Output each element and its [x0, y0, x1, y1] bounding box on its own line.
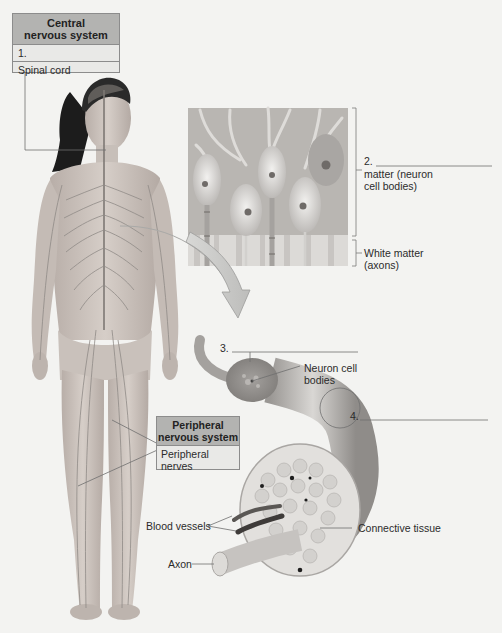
- cns-box-header: Central nervous system: [13, 14, 119, 45]
- blank-4-number[interactable]: 4.: [350, 410, 359, 422]
- pns-item-line1: Peripheral: [161, 448, 235, 460]
- blank-1-number: 1.: [18, 47, 27, 59]
- blank-2-number[interactable]: 2.: [364, 155, 373, 167]
- pns-title-line2: nervous system: [158, 431, 238, 443]
- neuron-cell-bodies-line2: bodies: [304, 374, 357, 386]
- gray-white-matter-panel: [188, 108, 362, 266]
- white-matter-line1: White matter: [364, 247, 424, 259]
- human-figure: [32, 78, 179, 620]
- pns-box-header: Peripheral nervous system: [157, 417, 239, 446]
- cns-spinal-cord-label: Spinal cord: [13, 62, 119, 78]
- gray-matter-line1: matter (neuron: [364, 168, 433, 180]
- neuron-cell-bodies-label: Neuron cell bodies: [304, 362, 357, 386]
- cns-label-box: Central nervous system 1. Spinal cord: [12, 13, 120, 73]
- blank-3-number[interactable]: 3.: [220, 342, 229, 354]
- pns-item-line2: nerves: [161, 460, 235, 472]
- white-matter-line2: (axons): [364, 259, 424, 271]
- pns-peripheral-nerves-label: Peripheral nerves: [157, 446, 239, 474]
- pns-label-box: Peripheral nervous system Peripheral ner…: [156, 416, 240, 470]
- nervous-system-illustration: [0, 0, 502, 633]
- axon-label: Axon: [168, 558, 192, 570]
- cns-title-line2: nervous system: [15, 29, 117, 41]
- connective-tissue-label: Connective tissue: [358, 522, 441, 534]
- gray-matter-line2: cell bodies): [364, 180, 433, 192]
- blood-vessels-label: Blood vessels: [146, 520, 211, 532]
- cns-blank-1[interactable]: 1.: [13, 45, 119, 62]
- white-matter-label: White matter (axons): [364, 247, 424, 271]
- cns-title-line1: Central: [15, 17, 117, 29]
- gray-matter-label: matter (neuron cell bodies): [364, 168, 433, 192]
- pns-title-line1: Peripheral: [158, 419, 238, 431]
- neuron-cell-bodies-line1: Neuron cell: [304, 362, 357, 374]
